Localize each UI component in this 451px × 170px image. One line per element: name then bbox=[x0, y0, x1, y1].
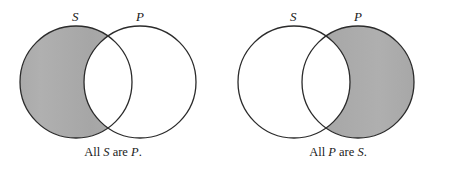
circle-label-s: S bbox=[290, 10, 297, 23]
venn-diagram-all-p-are-s: S P All P are S. bbox=[225, 0, 451, 170]
caption-subject-symbol: P bbox=[328, 145, 336, 159]
caption-prefix: All bbox=[84, 145, 103, 159]
venn-diagram-figure: S P All S are P. bbox=[0, 0, 451, 170]
circle-label-s: S bbox=[72, 10, 79, 23]
circle-label-p: P bbox=[354, 10, 362, 23]
caption-prefix: All bbox=[309, 145, 328, 159]
caption-all-s-are-p: All S are P. bbox=[0, 146, 226, 159]
circle-label-p: P bbox=[136, 10, 144, 23]
venn-diagram-all-s-are-p: S P All S are P. bbox=[0, 0, 226, 170]
caption-predicate-symbol: P bbox=[131, 145, 139, 159]
caption-middle: are bbox=[110, 145, 132, 159]
caption-middle: are bbox=[336, 145, 358, 159]
caption-suffix: . bbox=[139, 145, 142, 159]
caption-all-p-are-s: All P are S. bbox=[225, 146, 451, 159]
caption-suffix: . bbox=[364, 145, 367, 159]
